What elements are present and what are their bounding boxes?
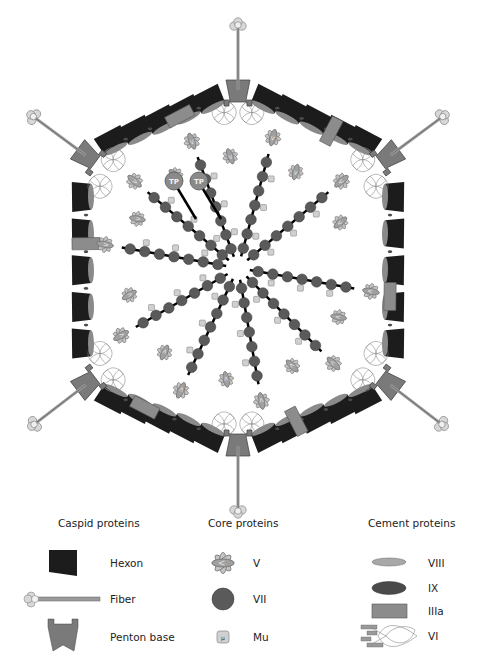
protein-v-icon: [154, 342, 175, 363]
legend-group-cement-proteins: Cement proteinsVIIIIXIIIaVI: [361, 517, 455, 647]
protein-v-icon: [329, 211, 351, 233]
protein-vii-icon: [212, 308, 223, 319]
protein-vii-icon: [138, 317, 149, 328]
protein-iiia-icon: [72, 237, 100, 249]
protein-mu-icon: [200, 275, 206, 281]
protein-vii-icon: [310, 340, 321, 351]
protein-v-icon: [212, 552, 235, 573]
protein-vii-icon: [261, 157, 272, 168]
fiber-icon: [24, 592, 100, 607]
core: [95, 127, 381, 411]
protein-vii-icon: [236, 283, 247, 294]
protein-ix-icon: [388, 324, 392, 327]
penton-base-icon: [224, 18, 252, 112]
protein-vii-icon: [311, 277, 322, 288]
protein-vii-icon: [183, 254, 194, 265]
protein-mu-icon: [313, 211, 319, 217]
protein-vii-icon: [294, 211, 305, 222]
svg-text:μ: μ: [221, 634, 225, 642]
protein-vii-icon: [267, 269, 278, 280]
protein-vii-icon: [238, 243, 249, 254]
protein-v-icon: [263, 127, 283, 148]
protein-vii-icon: [205, 322, 216, 333]
protein-mu-icon: [261, 205, 267, 211]
protein-ix-icon: [348, 398, 352, 401]
protein-ix-icon: [124, 398, 128, 401]
protein-vii-icon: [189, 288, 200, 299]
legend-label: Penton base: [110, 631, 175, 643]
protein-vii-icon: [241, 312, 252, 323]
protein-mu-icon: [173, 245, 179, 251]
legend-label: IX: [428, 582, 438, 594]
legend-label: Fiber: [110, 593, 136, 605]
protein-ix-icon: [324, 408, 328, 411]
protein-vii-icon: [268, 298, 279, 309]
protein-mu-icon: [297, 285, 303, 291]
protein-v-icon: [329, 308, 348, 326]
protein-v-icon: [361, 282, 381, 301]
protein-ix-icon: [84, 214, 88, 217]
protein-vii-icon: [215, 273, 226, 284]
terminal-protein: TP: [165, 172, 183, 190]
protein-ix-icon: [275, 107, 279, 110]
protein-vii-icon: [186, 362, 197, 373]
hexon-icon: [72, 292, 94, 322]
svg-text:TP: TP: [194, 178, 204, 186]
protein-ix-icon: [148, 127, 152, 130]
protein-vii-icon: [341, 282, 352, 293]
protein-vii-icon: [252, 371, 263, 382]
protein-vii-icon: [221, 230, 232, 241]
protein-vii-icon: [139, 246, 150, 257]
protein-mu-icon: [268, 176, 274, 182]
protein-vii-icon: [193, 349, 204, 360]
protein-v-icon: [110, 324, 133, 347]
protein-vii-icon: [247, 341, 258, 352]
protein-v-icon: [128, 210, 147, 228]
legend: Caspid proteinsHexonFiberPenton baseCore…: [24, 517, 455, 651]
protein-ix-icon: [197, 107, 201, 110]
protein-mu-icon: [187, 347, 193, 353]
legend-label: VIII: [428, 557, 444, 569]
protein-ix-icon: [84, 250, 88, 253]
legend-group-core-proteins: Core proteinsVVIIμMu: [208, 517, 278, 643]
protein-vii-icon: [317, 192, 328, 203]
protein-vii-icon: [239, 297, 250, 308]
protein-ix-icon: [348, 138, 352, 141]
hexon-icon: [382, 255, 404, 285]
protein-mu-icon: [211, 173, 217, 179]
protein-vii-icon: [248, 250, 259, 261]
protein-mu-icon: [243, 360, 249, 366]
protein-v-icon: [118, 284, 140, 305]
protein-vii-icon: [218, 295, 229, 306]
protein-mu-icon: [275, 317, 281, 323]
protein-vii-icon: [151, 310, 162, 321]
protein-ix-icon: [197, 427, 201, 430]
protein-mu-icon: [253, 233, 259, 239]
capsid: [72, 84, 404, 453]
protein-v-icon: [181, 130, 202, 152]
protein-mu-icon: [237, 331, 243, 337]
protein-vii-icon: [164, 303, 175, 314]
protein-vii-icon: [289, 319, 300, 330]
protein-vii-icon: [253, 186, 264, 197]
hexon-icon: [382, 182, 404, 212]
hexon-icon: [72, 182, 94, 212]
protein-vii-icon: [199, 335, 210, 346]
protein-vii-icon: [213, 259, 224, 270]
protein-vii-icon: [282, 271, 293, 282]
protein-mu-icon: [149, 305, 155, 311]
protein-vii-icon: [202, 280, 213, 291]
protein-v-icon: [170, 379, 192, 401]
hexon-icon: [72, 255, 94, 285]
legend-group-title: Cement proteins: [368, 517, 455, 529]
legend-label: VII: [253, 593, 266, 605]
protein-v-icon: [322, 352, 346, 376]
protein-v-icon: [330, 170, 353, 193]
protein-mu-icon: [212, 293, 218, 299]
protein-mu-icon: [291, 230, 297, 236]
penton-base-icon: [48, 619, 78, 651]
protein-vii-icon: [154, 249, 165, 260]
protein-vii-icon: [246, 214, 257, 225]
protein-vi-icon: [361, 625, 417, 647]
protein-mu-icon: [232, 301, 238, 307]
